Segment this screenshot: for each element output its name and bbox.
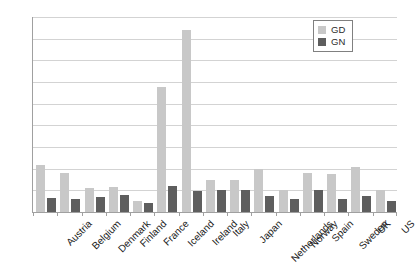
bar-group xyxy=(179,17,203,212)
legend-swatch-gn xyxy=(318,38,326,46)
x-axis-tick xyxy=(57,212,58,216)
bar-gd xyxy=(206,180,215,213)
x-axis-tick xyxy=(300,212,301,216)
legend-swatch-gd xyxy=(318,26,326,34)
x-axis-tick xyxy=(227,212,228,216)
bar-gd xyxy=(182,30,191,212)
x-axis-label: US xyxy=(399,218,416,236)
bar-group xyxy=(276,17,300,212)
bar-group xyxy=(57,17,81,212)
bar-gd xyxy=(60,173,69,212)
bar-gn xyxy=(47,198,56,212)
legend-label-gd: GD xyxy=(331,25,345,35)
bar-gn xyxy=(193,191,202,212)
x-axis-tick xyxy=(33,212,34,216)
x-axis-tick xyxy=(203,212,204,216)
bar-gn xyxy=(144,203,153,212)
bar-gn xyxy=(96,197,105,212)
bar-gn xyxy=(387,201,396,212)
bar-gn xyxy=(362,196,371,212)
x-axis-tick xyxy=(106,212,107,216)
x-axis-tick xyxy=(276,212,277,216)
bar-gn xyxy=(338,199,347,212)
x-axis-label: Japan xyxy=(257,218,284,245)
bar-group xyxy=(82,17,106,212)
x-axis-tick xyxy=(373,212,374,216)
bar-gd xyxy=(376,190,385,212)
bar-group xyxy=(373,17,397,212)
bar-gn xyxy=(314,190,323,212)
chart-legend: GD GN xyxy=(313,20,353,52)
x-axis-tick xyxy=(179,212,180,216)
bar-group xyxy=(154,17,178,212)
x-axis-tick xyxy=(130,212,131,216)
bar-gd xyxy=(109,187,118,212)
legend-item-gd: GD xyxy=(318,24,345,36)
bar-group xyxy=(251,17,275,212)
bar-group xyxy=(33,17,57,212)
bar-gn xyxy=(290,199,299,212)
bar-gd xyxy=(230,180,239,213)
bar-gn xyxy=(265,196,274,212)
bar-gn xyxy=(217,190,226,212)
bar-gd xyxy=(351,167,360,213)
legend-label-gn: GN xyxy=(331,37,345,47)
bar-gd xyxy=(279,190,288,212)
bar-gd xyxy=(157,87,166,212)
x-axis-tick xyxy=(348,212,349,216)
bar-gd xyxy=(327,174,336,212)
bar-gd xyxy=(254,169,263,212)
bar-gn xyxy=(168,186,177,212)
bar-group xyxy=(203,17,227,212)
x-axis-label: Iceland xyxy=(186,218,217,249)
bar-gn xyxy=(120,195,129,212)
bar-group xyxy=(227,17,251,212)
bar-gd xyxy=(303,173,312,212)
bar-gn xyxy=(241,190,250,212)
bar-gd xyxy=(36,165,45,212)
bar-group xyxy=(106,17,130,212)
x-axis-tick xyxy=(396,212,397,216)
x-axis-tick xyxy=(251,212,252,216)
bar-gd xyxy=(85,188,94,212)
x-axis-tick xyxy=(82,212,83,216)
x-axis-tick xyxy=(154,212,155,216)
bar-gn xyxy=(71,199,80,212)
bar-group xyxy=(130,17,154,212)
x-axis-tick xyxy=(324,212,325,216)
bar-gd xyxy=(133,201,142,212)
legend-item-gn: GN xyxy=(318,36,345,48)
